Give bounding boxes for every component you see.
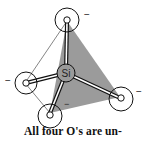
oxygen-bottom-charge: − xyxy=(64,99,69,109)
diagram-caption: All four O's are un- xyxy=(0,125,146,137)
oxygen-atom-top: − xyxy=(55,8,90,32)
silicon-label: Si xyxy=(62,68,71,79)
silicon-atom: Si xyxy=(57,64,75,82)
oxygen-atom-right: − xyxy=(109,86,142,111)
silicate-tetrahedron-diagram: Si − − − − xyxy=(0,0,146,141)
oxygen-left-charge: − xyxy=(5,75,11,86)
oxygen-atom-left: − xyxy=(5,72,37,94)
oxygen-top-charge: − xyxy=(84,9,90,20)
oxygen-right-charge: − xyxy=(136,86,142,97)
